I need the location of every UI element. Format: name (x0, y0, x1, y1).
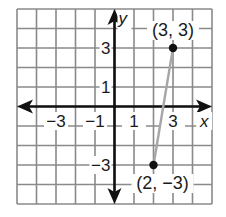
y-axis-label: y (118, 9, 129, 28)
y-tick-label: −3 (91, 156, 110, 175)
x-tick-label: −1 (85, 112, 104, 131)
x-tick-label: 1 (129, 112, 138, 131)
coordinate-plane: −3−113x31−3y (3, 3)(2, −3) (0, 0, 226, 217)
x-tick-label: −3 (46, 112, 65, 131)
y-tick-label: 1 (101, 78, 110, 97)
point-dot (169, 44, 177, 52)
y-tick-label: 3 (101, 39, 110, 58)
x-axis-label: x (199, 112, 209, 131)
point-dot (149, 161, 157, 169)
point-label: (2, −3) (136, 173, 189, 193)
point-label: (3, 3) (152, 20, 194, 40)
x-tick-label: 3 (168, 112, 177, 131)
